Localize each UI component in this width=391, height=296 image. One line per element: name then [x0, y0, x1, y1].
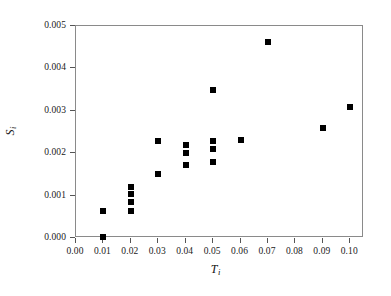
data-point [183, 150, 189, 156]
scatter-plot-figure: 0.0000.0010.0020.0030.0040.005 0.000.010… [0, 0, 391, 296]
data-point [155, 138, 161, 144]
x-tick-label-10: 0.10 [341, 246, 358, 256]
y-tick-label-2: 0.002 [44, 147, 66, 157]
x-tick-4 [185, 238, 186, 243]
x-tick-5 [212, 238, 213, 243]
y-tick-label-4: 0.004 [44, 62, 66, 72]
x-axis-subscript: i [218, 267, 220, 277]
x-tick-9 [322, 238, 323, 243]
x-tick-label-8: 0.08 [286, 246, 303, 256]
y-axis-title: Si [3, 127, 18, 136]
x-tick-6 [240, 238, 241, 243]
data-point [183, 142, 189, 148]
x-tick-label-2: 0.02 [121, 246, 138, 256]
data-point [100, 234, 106, 240]
x-tick-label-5: 0.05 [204, 246, 221, 256]
y-axis-symbol: S [3, 129, 17, 135]
y-tick-label-0: 0.000 [44, 232, 66, 242]
data-point [347, 104, 353, 110]
x-tick-10 [349, 238, 350, 243]
data-point [128, 191, 134, 197]
x-tick-label-3: 0.03 [149, 246, 166, 256]
data-point [265, 39, 271, 45]
x-tick-3 [157, 238, 158, 243]
data-point [155, 171, 161, 177]
plot-area [75, 25, 363, 237]
data-point [210, 87, 216, 93]
y-tick-label-3: 0.003 [44, 105, 66, 115]
x-tick-label-0: 0.00 [66, 246, 83, 256]
x-tick-label-1: 0.01 [94, 246, 111, 256]
x-tick-7 [267, 238, 268, 243]
x-tick-8 [294, 238, 295, 243]
x-tick-2 [130, 238, 131, 243]
data-point [128, 199, 134, 205]
x-axis-symbol: T [211, 262, 218, 276]
data-point [210, 138, 216, 144]
x-tick-label-7: 0.07 [258, 246, 275, 256]
data-point [128, 208, 134, 214]
x-tick-label-6: 0.06 [231, 246, 248, 256]
data-point [210, 159, 216, 165]
y-tick-label-1: 0.001 [44, 190, 66, 200]
x-tick-label-9: 0.09 [313, 246, 330, 256]
data-point [183, 162, 189, 168]
x-axis-title: Ti [0, 262, 391, 277]
x-tick-label-4: 0.04 [176, 246, 193, 256]
data-point [210, 146, 216, 152]
data-point [128, 184, 134, 190]
data-point [100, 208, 106, 214]
data-point [320, 125, 326, 131]
x-tick-0 [75, 238, 76, 243]
data-point [238, 137, 244, 143]
y-tick-label-5: 0.005 [44, 20, 66, 30]
